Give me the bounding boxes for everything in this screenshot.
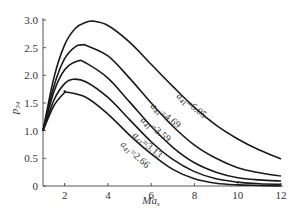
y-tick-label: 2.0 (24, 69, 38, 81)
line-chart: 00.51.01.52.02.53.024681012 a41=6.05a41=… (0, 0, 302, 221)
x-tick-label: 12 (276, 189, 287, 201)
y-tick-label: 1.0 (24, 125, 38, 137)
x-tick-label: 8 (192, 189, 198, 201)
x-tick-label: 10 (232, 189, 244, 201)
curve-labels: a41=6.05a41=4.69a41=3.59a41=3.13a41=2.66 (117, 90, 209, 172)
curves (43, 21, 281, 186)
y-axis-title: p34 (8, 101, 22, 115)
y-tick-label: 2.5 (24, 42, 38, 54)
y-tick-label: 0 (33, 180, 39, 192)
y-tick-label: 0.5 (24, 152, 38, 164)
x-axis-title: Mas (141, 194, 160, 208)
x-tick-label: 2 (62, 189, 68, 201)
y-tick-label: 3.0 (24, 14, 38, 26)
y-tick-label: 1.5 (24, 97, 38, 109)
x-tick-label: 4 (105, 189, 111, 201)
